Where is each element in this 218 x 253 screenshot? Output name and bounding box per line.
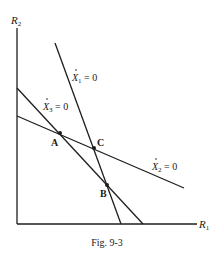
y-axis-label: R2 <box>10 14 22 28</box>
label-x1-nullcline: X1 = 0 <box>71 69 97 85</box>
line-x3-nullcline <box>17 88 143 224</box>
phase-diagram: R2 R1 A C B X1 = 0 X3 = 0 X2 = 0 Fig. 9-… <box>0 0 218 253</box>
label-x2-nullcline: X2 = 0 <box>151 158 177 174</box>
point-c-label: C <box>97 137 104 148</box>
point-c-marker <box>92 146 96 150</box>
svg-text:X3 = 0: X3 = 0 <box>42 101 68 114</box>
point-a-label: A <box>51 137 59 148</box>
point-b-label: B <box>100 188 107 199</box>
dot-accent-icon <box>155 158 157 160</box>
line-x1-nullcline <box>55 43 121 224</box>
x-axis-label: R1 <box>198 218 210 232</box>
dot-accent-icon <box>75 69 77 71</box>
point-b-marker <box>105 183 109 187</box>
figure-caption: Fig. 9-3 <box>91 237 123 248</box>
label-x3-nullcline: X3 = 0 <box>42 98 68 114</box>
dot-accent-icon <box>46 98 48 100</box>
svg-text:X1 = 0: X1 = 0 <box>71 72 97 85</box>
point-a-marker <box>58 131 62 135</box>
svg-text:X2 = 0: X2 = 0 <box>151 161 177 174</box>
